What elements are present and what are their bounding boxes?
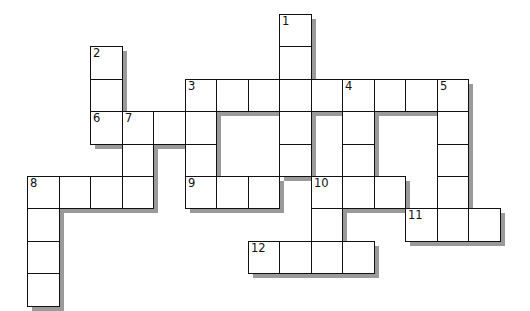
- crossword-cell[interactable]: 3: [185, 79, 217, 112]
- crossword-cell[interactable]: [122, 144, 154, 177]
- crossword-cell[interactable]: [437, 111, 469, 145]
- crossword-cell[interactable]: 9: [185, 176, 217, 209]
- clue-number: 7: [125, 112, 132, 125]
- crossword-cell[interactable]: 1: [279, 14, 312, 47]
- crossword-cell[interactable]: [342, 144, 375, 177]
- crossword-cell[interactable]: [437, 176, 469, 209]
- crossword-cell[interactable]: [248, 79, 280, 112]
- crossword-cell[interactable]: [437, 144, 469, 177]
- crossword-cell[interactable]: [311, 241, 343, 274]
- clue-number: 9: [188, 177, 195, 190]
- crossword-cell[interactable]: [90, 176, 123, 209]
- crossword-cell[interactable]: [279, 241, 312, 274]
- clue-number: 4: [345, 80, 352, 93]
- crossword-cell[interactable]: [342, 111, 375, 145]
- clue-number: 12: [251, 242, 266, 255]
- crossword-cell[interactable]: [248, 176, 280, 209]
- crossword-cell[interactable]: 8: [27, 176, 60, 209]
- crossword-cell[interactable]: [468, 208, 501, 242]
- crossword-cell[interactable]: [279, 144, 312, 177]
- crossword-cell[interactable]: [153, 111, 186, 145]
- crossword-cell[interactable]: 12: [248, 241, 280, 274]
- crossword-cell[interactable]: 6: [90, 111, 123, 145]
- clue-number: 8: [30, 177, 37, 190]
- crossword-cell[interactable]: [374, 79, 406, 112]
- crossword-cell[interactable]: [27, 208, 60, 242]
- clue-number: 10: [314, 177, 329, 190]
- clue-number: 1: [282, 15, 289, 28]
- crossword-cell[interactable]: 10: [311, 176, 343, 209]
- crossword-cell[interactable]: 7: [122, 111, 154, 145]
- crossword-cell[interactable]: [279, 111, 312, 145]
- crossword-cell[interactable]: [216, 176, 249, 209]
- crossword-cell[interactable]: 11: [405, 208, 438, 242]
- crossword-cell[interactable]: 5: [437, 79, 469, 112]
- crossword-cell[interactable]: [405, 79, 438, 112]
- clue-number: 3: [188, 80, 195, 93]
- crossword-cell[interactable]: [342, 176, 375, 209]
- crossword-cell[interactable]: [311, 79, 343, 112]
- crossword-cell[interactable]: [279, 46, 312, 80]
- crossword-cell[interactable]: 2: [90, 46, 123, 80]
- crossword-cell[interactable]: [216, 79, 249, 112]
- crossword-cell[interactable]: [90, 79, 123, 112]
- crossword-cell[interactable]: [59, 176, 91, 209]
- crossword-cell[interactable]: [122, 176, 154, 209]
- clue-number: 6: [93, 112, 100, 125]
- crossword-cell[interactable]: [374, 176, 406, 209]
- clue-number: 2: [93, 47, 100, 60]
- crossword-cell[interactable]: [279, 79, 312, 112]
- crossword-cell[interactable]: [27, 241, 60, 274]
- clue-number: 11: [408, 209, 423, 222]
- crossword-cell[interactable]: [311, 208, 343, 242]
- crossword-cell[interactable]: [27, 273, 60, 307]
- clue-number: 5: [440, 80, 447, 93]
- crossword-cell[interactable]: 4: [342, 79, 375, 112]
- crossword-cell[interactable]: [185, 144, 217, 177]
- crossword-cell[interactable]: [185, 111, 217, 145]
- crossword-cell[interactable]: [342, 241, 375, 274]
- crossword-cell[interactable]: [437, 208, 469, 242]
